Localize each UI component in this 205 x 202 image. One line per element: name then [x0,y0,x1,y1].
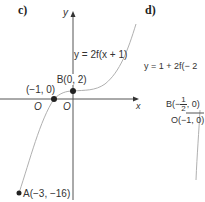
point-a [17,191,22,196]
y-axis-arrow-icon [71,11,76,17]
label-point-o-d: O(−1, 0) [171,116,204,125]
label-point-root: (−1, 0) [26,85,55,95]
origin-label-left: O [34,102,42,112]
equation-d: y = 1 + 2f(− 2 [144,62,197,71]
part-label-c: c) [18,3,27,18]
point-b [70,88,76,94]
part-label-d: d) [145,3,156,18]
x-axis-label: x [136,102,141,111]
label-point-a: A(−3, −16) [23,189,70,199]
label-point-b: BB(0, 2) [57,75,87,85]
point-root [51,96,57,102]
equation-c: y = 2f(x + 1) [74,50,127,60]
label-point-b-d: B(−12, 0) [166,96,200,113]
origin-label-right: O [63,102,71,112]
y-axis-label: y [63,8,68,18]
